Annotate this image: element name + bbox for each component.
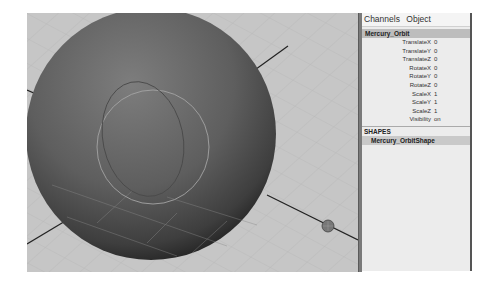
channel-label: RotateY — [409, 72, 431, 81]
channel-value[interactable]: 1 — [434, 98, 437, 107]
channel-value[interactable]: 0 — [434, 72, 437, 81]
channel-value[interactable]: 0 — [434, 81, 437, 90]
3d-viewport[interactable] — [27, 13, 358, 272]
channel-value[interactable]: 0 — [434, 47, 437, 56]
channel-label: RotateZ — [410, 81, 431, 90]
channel-box-menubar: Channels Object — [362, 13, 470, 27]
channel-row[interactable]: ScaleY1 — [362, 98, 470, 107]
channel-value[interactable]: 1 — [434, 90, 437, 99]
channel-list: TranslateX0 TranslateY0 TranslateZ0 Rota… — [362, 38, 470, 124]
channel-label: ScaleZ — [412, 107, 431, 116]
channel-value[interactable]: 0 — [434, 38, 437, 47]
channel-row[interactable]: RotateX0 — [362, 64, 470, 73]
channel-label: TranslateZ — [403, 55, 431, 64]
channel-row[interactable]: TranslateY0 — [362, 47, 470, 56]
menu-object[interactable]: Object — [406, 14, 431, 24]
channel-label: ScaleX — [412, 90, 431, 99]
channel-row[interactable]: RotateY0 — [362, 72, 470, 81]
channel-value[interactable]: 1 — [434, 107, 437, 116]
channel-row[interactable]: ScaleX1 — [362, 90, 470, 99]
channel-value[interactable]: 0 — [434, 64, 437, 73]
channel-label: TranslateY — [402, 47, 431, 56]
shape-item[interactable]: Mercury_OrbitShape — [362, 136, 470, 145]
channel-row[interactable]: TranslateZ0 — [362, 55, 470, 64]
scene-canvas[interactable] — [27, 13, 358, 272]
channel-row[interactable]: Visibilityon — [362, 115, 470, 124]
channel-label: RotateX — [409, 64, 431, 73]
shapes-header: SHAPES — [362, 126, 470, 136]
channel-box: Channels Object Mercury_Orbit TranslateX… — [362, 13, 472, 271]
sphere-mesh[interactable] — [27, 13, 276, 260]
menu-channels[interactable]: Channels — [364, 14, 400, 24]
channel-value[interactable]: 0 — [434, 55, 437, 64]
channel-value[interactable]: on — [434, 115, 441, 124]
channel-label: Visibility — [409, 115, 431, 124]
channel-row[interactable]: TranslateX0 — [362, 38, 470, 47]
channel-row[interactable]: ScaleZ1 — [362, 107, 470, 116]
selected-object-name[interactable]: Mercury_Orbit — [362, 29, 470, 38]
channel-label: TranslateX — [402, 38, 431, 47]
channel-row[interactable]: RotateZ0 — [362, 81, 470, 90]
channel-label: ScaleY — [412, 98, 431, 107]
